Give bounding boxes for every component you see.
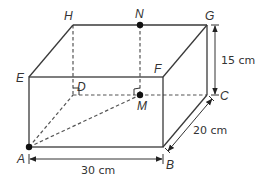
point-label-N: N (135, 7, 144, 21)
length-label: 30 cm (81, 164, 115, 177)
vertex-label-H: H (64, 9, 73, 23)
edge-FG (163, 25, 207, 77)
cuboid-diagram: 15 cm 20 cm 30 cm A B C D E F G H N M (0, 0, 260, 182)
vertex-label-C: C (220, 89, 229, 103)
vertex-label-E: E (16, 71, 25, 85)
vertex-label-G: G (205, 9, 214, 23)
dimension-height: 15 cm (211, 25, 255, 95)
vertex-label-D: D (77, 80, 86, 94)
visible-edges (29, 25, 207, 147)
point-M-dot (137, 92, 143, 98)
vertex-label-F: F (154, 62, 162, 76)
dimension-length: 30 cm (29, 154, 163, 177)
point-A-dot (26, 144, 32, 150)
hidden-edges (29, 25, 207, 147)
edge-BC (163, 95, 207, 147)
height-label: 15 cm (221, 54, 255, 67)
dimension-width: 20 cm (165, 96, 227, 153)
segment-AM (29, 95, 140, 147)
edge-EH (29, 25, 73, 77)
width-label: 20 cm (193, 124, 227, 137)
edge-AD (29, 95, 73, 147)
vertex-label-B: B (166, 158, 174, 172)
point-label-M: M (137, 99, 147, 113)
point-N-dot (137, 22, 143, 28)
vertex-label-A: A (16, 152, 25, 166)
